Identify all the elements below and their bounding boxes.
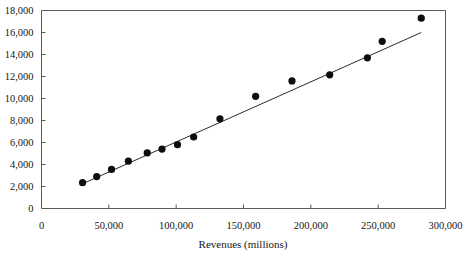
data-point xyxy=(288,77,295,84)
y-axis-tick-labels: 02,0004,0006,0008,00010,00012,00014,0001… xyxy=(5,5,34,214)
y-tick-label: 6,000 xyxy=(10,137,34,148)
x-tick-label: 200,000 xyxy=(294,220,328,231)
x-tick-label: 0 xyxy=(39,220,44,231)
data-point xyxy=(379,38,386,45)
y-tick-label: 18,000 xyxy=(5,5,34,16)
x-axis-tick-labels: 050,000100,000150,000200,000250,000300,0… xyxy=(39,220,463,231)
y-tick-label: 16,000 xyxy=(5,27,34,38)
data-point xyxy=(79,179,86,186)
scatter-chart: 02,0004,0006,0008,00010,00012,00014,0001… xyxy=(0,0,467,257)
data-point xyxy=(216,115,223,122)
y-tick-label: 12,000 xyxy=(5,71,34,82)
data-point xyxy=(158,146,165,153)
data-points xyxy=(79,15,425,187)
data-point xyxy=(418,15,425,22)
x-axis-tick-marks xyxy=(109,205,378,209)
data-point xyxy=(144,149,151,156)
data-point xyxy=(190,133,197,140)
chart-canvas: 02,0004,0006,0008,00010,00012,00014,0001… xyxy=(0,0,467,257)
data-point xyxy=(174,141,181,148)
x-axis-title: Revenues (millions) xyxy=(199,238,288,251)
x-tick-label: 250,000 xyxy=(361,220,395,231)
data-point xyxy=(252,93,259,100)
x-tick-label: 100,000 xyxy=(159,220,193,231)
data-point xyxy=(108,166,115,173)
y-tick-label: 14,000 xyxy=(5,49,34,60)
y-tick-label: 8,000 xyxy=(10,115,34,126)
y-axis-tick-marks xyxy=(42,33,46,187)
x-tick-label: 300,000 xyxy=(428,220,462,231)
data-point xyxy=(125,158,132,165)
data-point xyxy=(326,71,333,78)
x-tick-label: 150,000 xyxy=(226,220,260,231)
regression-line xyxy=(83,33,422,184)
y-tick-label: 10,000 xyxy=(5,93,34,104)
y-tick-label: 0 xyxy=(28,203,33,214)
x-tick-label: 50,000 xyxy=(94,220,123,231)
y-tick-label: 4,000 xyxy=(10,159,34,170)
data-point xyxy=(364,54,371,61)
y-tick-label: 2,000 xyxy=(10,181,34,192)
data-point xyxy=(93,173,100,180)
